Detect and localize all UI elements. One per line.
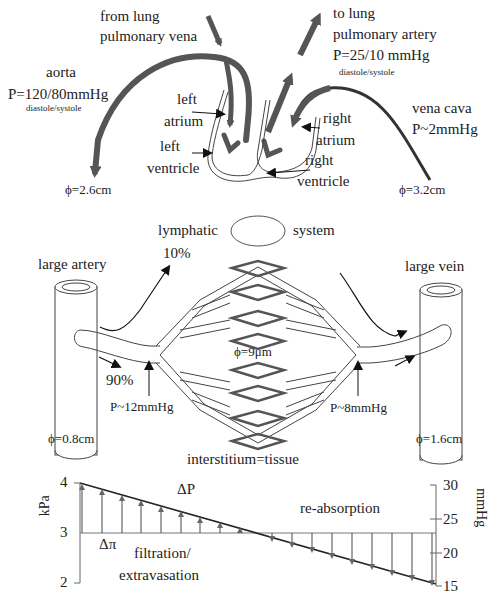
aorta-pressure: P=120/80mmHg: [8, 86, 108, 103]
filtration-label: filtration/: [134, 545, 191, 562]
left-atrium-label-1: left: [177, 91, 197, 108]
vena-cava-pressure: P~2mmHg: [412, 121, 478, 138]
extravasation-label: extravasation: [119, 567, 199, 584]
filtration-arrows: [82, 487, 240, 533]
vena-cava-diameter: ϕ=3.2cm: [399, 183, 445, 197]
left-ventricle-label-1: left: [160, 138, 180, 155]
kpa-axis-label: kPa: [37, 495, 52, 516]
pulmonary-artery-pressure: P=25/10 mmHg: [333, 47, 429, 64]
right-atrium-label-2: atrium: [316, 132, 355, 149]
kpa-tick-4: 4: [60, 474, 68, 491]
right-ventricle-flow-arrow: [264, 141, 280, 155]
lymph-fraction: 10%: [163, 245, 191, 262]
right-ventricle-label-2: ventricle: [297, 173, 349, 190]
mmhg-axis-label: mmHg: [474, 488, 489, 527]
system-label: system: [293, 222, 335, 239]
left-ventricle-flow-arrow: [224, 135, 238, 150]
vein-diameter: ϕ=1.6cm: [416, 432, 462, 446]
left-ventricle-label-2: ventricle: [147, 160, 199, 177]
right-ventricle-outflow-arrow: [268, 78, 290, 132]
aorta-diameter: ϕ=2.6cm: [65, 183, 111, 197]
large-vein-label: large vein: [405, 258, 464, 275]
mmhg-tick-25: 25: [443, 511, 458, 528]
delta-p-label: ΔP: [177, 481, 195, 498]
lymphatic-label: lymphatic: [158, 222, 218, 239]
venous-pressure: P~8mmHg: [330, 401, 387, 415]
reabsorption-label: re-absorption: [300, 500, 380, 517]
mmhg-tick-15: 15: [443, 578, 458, 595]
artery-diameter: ϕ=0.8cm: [48, 432, 94, 446]
microcirculation-diagram: [55, 216, 462, 464]
mmhg-tick-20: 20: [443, 545, 458, 562]
interstitium-label: interstitium=tissue: [187, 451, 299, 468]
capillary-diameter: ϕ=9μm: [234, 345, 272, 359]
arterial-pressure: P~12mmHg: [110, 400, 173, 414]
pulmonary-vena-arrow: [208, 16, 220, 44]
right-atrium-pointer: [305, 127, 320, 128]
lymph-flow-arrow: [100, 268, 168, 331]
left-heart-inner-wall: [212, 92, 270, 176]
large-artery-label: large artery: [38, 256, 106, 273]
from-lung-label: from lung: [100, 8, 160, 25]
right-atrium-label-1: right: [323, 110, 351, 127]
pulmonary-artery-note: diastole/systole: [339, 68, 395, 78]
kpa-tick-2: 2: [60, 574, 68, 591]
kpa-tick-3: 3: [60, 524, 68, 541]
mmhg-tick-30: 30: [443, 477, 458, 494]
pulmonary-artery-arrow: [300, 18, 318, 55]
right-ventricle-label-1: right: [305, 152, 333, 169]
aorta-label: aorta: [46, 64, 76, 81]
pulmonary-vena-label: pulmonary vena: [100, 28, 197, 45]
venous-fraction: 90%: [106, 372, 134, 389]
lymphatic-ellipse: [231, 216, 285, 246]
lymph-return-arrow: [340, 273, 404, 336]
left-atrium-inflow-arrow: [226, 60, 231, 125]
aorta-note: diastole/systole: [26, 104, 82, 114]
capillary-flow-arrow: [99, 357, 118, 366]
delta-pi-label: Δπ: [99, 536, 116, 553]
to-lung-label: to lung: [333, 5, 375, 22]
left-atrium-label-2: atrium: [164, 113, 203, 130]
vena-cava-label: vena cava: [412, 100, 472, 117]
pulmonary-artery-label: pulmonary artery: [333, 26, 437, 43]
